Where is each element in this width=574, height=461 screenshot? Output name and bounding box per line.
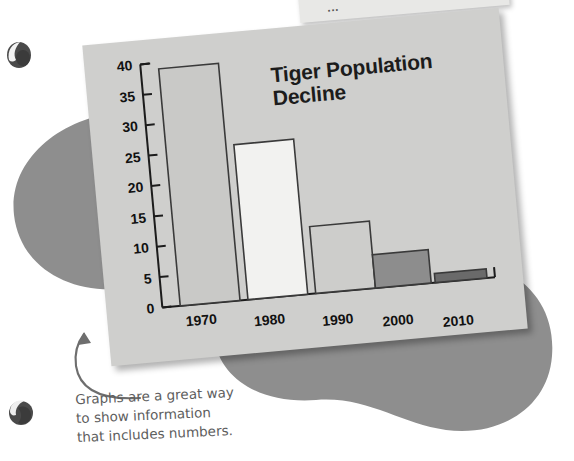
bar-1970 bbox=[159, 63, 240, 305]
x-tick-label-1970: 1970 bbox=[185, 311, 217, 330]
y-tick-label-5: 5 bbox=[121, 270, 152, 289]
bar-2000 bbox=[372, 250, 431, 288]
pebble-decoration-top bbox=[4, 38, 34, 70]
chart-card: 40 35 30 25 20 15 10 5 0 1970 1980 1990 … bbox=[82, 8, 527, 367]
y-tick-label-10: 10 bbox=[118, 239, 149, 258]
x-tick-label-1980: 1980 bbox=[253, 310, 285, 329]
bar-1990 bbox=[310, 221, 376, 293]
y-tick-label-30: 30 bbox=[107, 118, 138, 137]
y-tick-label-0: 0 bbox=[124, 300, 155, 319]
y-tick-label-15: 15 bbox=[115, 209, 146, 228]
x-tick-label-2010: 2010 bbox=[442, 311, 474, 330]
annotation-text: Graphs are a great way to show informati… bbox=[75, 378, 347, 448]
bar-1980 bbox=[234, 139, 308, 299]
pebble-decoration-bottom bbox=[6, 396, 36, 428]
x-tick-label-1990: 1990 bbox=[321, 310, 353, 329]
partial-card-text: ... bbox=[327, 0, 340, 15]
x-tick-label-2000: 2000 bbox=[382, 311, 414, 330]
y-tick-label-20: 20 bbox=[113, 179, 144, 198]
bar-2010 bbox=[434, 269, 487, 283]
y-tick-label-35: 35 bbox=[104, 88, 135, 107]
y-tick-label-25: 25 bbox=[110, 148, 141, 167]
y-tick-label-40: 40 bbox=[102, 57, 133, 76]
